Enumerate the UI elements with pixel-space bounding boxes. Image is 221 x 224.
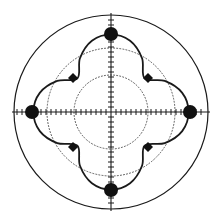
polar-plot-figure: [0, 0, 221, 224]
major-lobe-marker-270: [104, 183, 118, 197]
minor-null-marker-135: [68, 73, 78, 83]
major-lobe-marker-180: [25, 105, 39, 119]
major-lobe-marker-90: [104, 27, 118, 41]
minor-null-marker-45: [143, 73, 153, 83]
polar-plot-svg: [0, 0, 221, 224]
major-lobe-marker-0: [183, 105, 197, 119]
